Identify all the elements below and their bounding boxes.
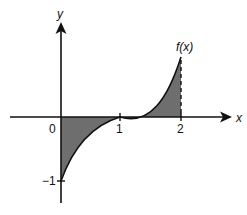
y-axis-label: y xyxy=(56,7,64,21)
x-axis-label: x xyxy=(235,111,243,125)
tick-label-origin: 0 xyxy=(49,122,56,136)
tick-label-x1: 1 xyxy=(116,122,123,136)
shaded-region-negative xyxy=(61,117,120,181)
tick-label-x2: 2 xyxy=(177,122,184,136)
function-area-diagram: y x 0 1 2 −1 f(x) xyxy=(0,0,247,215)
curve-label: f(x) xyxy=(176,40,193,54)
shaded-region-positive xyxy=(120,57,181,119)
tick-label-ym1: −1 xyxy=(42,174,56,188)
